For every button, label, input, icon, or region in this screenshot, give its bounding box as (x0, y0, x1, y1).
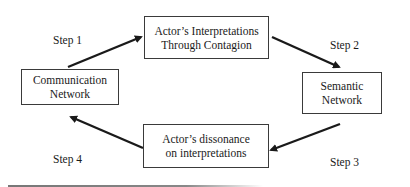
node-label-line-2: Network (33, 87, 107, 101)
node-label-line-2: Network (321, 93, 364, 107)
bottom-rule-divider (8, 185, 263, 187)
arrow-step-4 (71, 117, 143, 148)
node-actors-dissonance: Actor’s dissonance on interpretations (143, 124, 269, 168)
node-communication-network: Communication Network (21, 69, 119, 105)
step-2-label: Step 2 (330, 38, 359, 52)
node-label-line-2: on interpretations (162, 146, 250, 160)
arrow-step-3 (271, 124, 340, 150)
arrow-step-2 (272, 37, 339, 67)
node-actors-interpretations: Actor’s Interpretations Through Contagio… (144, 16, 269, 59)
node-label-line-1: Actor’s dissonance (162, 132, 250, 146)
node-label-line-1: Semantic (321, 79, 364, 93)
step-4-label: Step 4 (53, 152, 82, 166)
step-1-label: Step 1 (53, 33, 82, 47)
step-3-label: Step 3 (330, 155, 359, 169)
node-label-line-2: Through Contagion (154, 38, 258, 52)
node-label-line-1: Actor’s Interpretations (154, 24, 258, 38)
node-semantic-network: Semantic Network (302, 72, 382, 114)
node-label-line-1: Communication (33, 73, 107, 87)
